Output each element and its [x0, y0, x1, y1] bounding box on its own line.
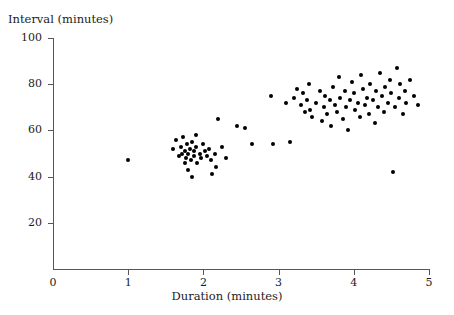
data-point: [391, 170, 395, 174]
data-point: [401, 112, 405, 116]
data-point: [333, 103, 337, 107]
y-tick-mark: [48, 223, 54, 224]
y-tick-mark: [48, 84, 54, 85]
x-tick-mark: [128, 269, 129, 275]
data-point: [408, 78, 412, 82]
data-point: [303, 110, 307, 114]
data-point: [380, 94, 384, 98]
data-point: [323, 94, 327, 98]
data-point: [346, 128, 350, 132]
data-point: [184, 156, 188, 160]
y-axis-line: [53, 38, 54, 270]
x-tick-label: 2: [191, 277, 215, 288]
data-point: [186, 168, 190, 172]
y-tick-label: 80: [8, 78, 42, 89]
data-point: [403, 89, 407, 93]
data-point: [195, 161, 199, 165]
data-point: [216, 117, 220, 121]
data-point: [295, 87, 299, 91]
data-point: [186, 152, 190, 156]
data-point: [310, 115, 314, 119]
data-point: [194, 145, 198, 149]
data-point: [337, 75, 341, 79]
data-point: [179, 145, 183, 149]
data-point: [183, 161, 187, 165]
data-point: [404, 101, 408, 105]
data-point: [363, 103, 367, 107]
data-point: [376, 105, 380, 109]
scatter-plot-figure: Interval (minutes) 20406080100 012345 Du…: [0, 0, 454, 315]
data-point: [210, 172, 214, 176]
data-point: [205, 154, 209, 158]
data-point: [203, 149, 207, 153]
data-point: [192, 154, 196, 158]
y-tick-mark: [48, 38, 54, 39]
data-point: [335, 110, 339, 114]
data-point: [365, 96, 369, 100]
data-point: [371, 98, 375, 102]
data-point: [341, 117, 345, 121]
data-point: [359, 73, 363, 77]
y-tick-label: 60: [8, 124, 42, 135]
data-point: [194, 133, 198, 137]
data-point: [348, 98, 352, 102]
data-point: [307, 82, 311, 86]
data-point: [328, 98, 332, 102]
y-tick-mark: [48, 130, 54, 131]
x-axis-title: Duration (minutes): [0, 289, 454, 303]
data-point: [192, 149, 196, 153]
data-point: [383, 85, 387, 89]
data-point: [329, 124, 333, 128]
data-point: [284, 101, 288, 105]
data-point: [397, 96, 401, 100]
data-point: [320, 119, 324, 123]
data-point: [388, 78, 392, 82]
data-point: [358, 115, 362, 119]
data-point: [338, 96, 342, 100]
data-point: [352, 91, 356, 95]
data-point: [367, 112, 371, 116]
data-point: [269, 94, 273, 98]
data-point: [243, 126, 247, 130]
data-point: [213, 152, 217, 156]
data-point: [322, 105, 326, 109]
data-point: [344, 105, 348, 109]
data-point: [361, 87, 365, 91]
data-point: [299, 103, 303, 107]
y-tick-label: 40: [8, 171, 42, 182]
data-point: [250, 142, 254, 146]
data-point: [174, 138, 178, 142]
data-point: [356, 101, 360, 105]
data-point: [382, 110, 386, 114]
data-point: [305, 98, 309, 102]
x-tick-label: 4: [342, 277, 366, 288]
y-tick-label: 20: [8, 217, 42, 228]
x-tick-mark: [354, 269, 355, 275]
data-point: [188, 147, 192, 151]
data-point: [378, 71, 382, 75]
data-point: [224, 156, 228, 160]
data-point: [398, 82, 402, 86]
y-axis-title: Interval (minutes): [8, 12, 113, 26]
data-point: [301, 91, 305, 95]
data-point: [353, 108, 357, 112]
data-point: [350, 80, 354, 84]
x-tick-label: 0: [41, 277, 65, 288]
data-point: [412, 94, 416, 98]
data-point: [171, 147, 175, 151]
x-tick-label: 5: [417, 277, 441, 288]
data-point: [292, 96, 296, 100]
data-point: [416, 103, 420, 107]
data-point: [207, 147, 211, 151]
data-point: [126, 158, 130, 162]
data-point: [389, 91, 393, 95]
data-point: [393, 105, 397, 109]
y-tick-label: 100: [8, 32, 42, 43]
data-point: [368, 82, 372, 86]
x-tick-mark: [279, 269, 280, 275]
data-point: [198, 152, 202, 156]
data-point: [220, 145, 224, 149]
data-point: [331, 85, 335, 89]
data-point: [374, 89, 378, 93]
x-tick-label: 3: [267, 277, 291, 288]
